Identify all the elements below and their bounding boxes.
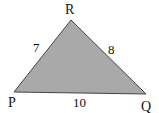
vertex-label-r: R [65,2,75,17]
triangle-pqr [14,20,146,94]
side-label-rq: 8 [108,42,115,57]
vertex-label-p: P [8,95,16,110]
triangle-diagram: R P Q 7 8 10 [0,0,159,113]
side-label-pr: 7 [33,40,40,55]
side-label-pq: 10 [73,95,86,110]
vertex-label-q: Q [141,99,151,113]
